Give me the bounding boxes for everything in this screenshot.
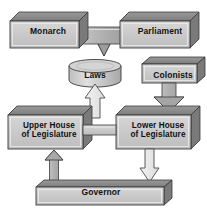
node-parliament-box xyxy=(120,12,199,48)
node-governor-box xyxy=(36,180,172,205)
node-laws-cylinder xyxy=(69,60,121,88)
connector-governor-to-upper-house xyxy=(45,150,63,182)
node-colonists-box xyxy=(142,57,205,83)
government-structure-diagram: Monarch Parliament Laws Colonists Upper … xyxy=(0,0,207,211)
connector-upper-lower-house-bar xyxy=(83,125,116,135)
node-monarch-box xyxy=(10,12,88,48)
connector-lower-house-to-governor xyxy=(140,149,159,182)
node-upper-house-box xyxy=(8,106,92,149)
diagram-canvas xyxy=(0,0,207,211)
node-lower-house-box xyxy=(116,106,200,149)
